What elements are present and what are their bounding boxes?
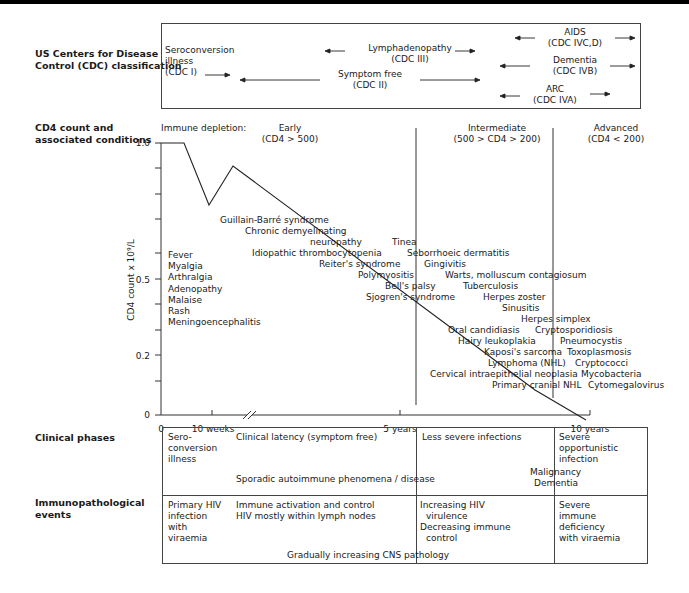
- condition: Tuberculosis: [463, 281, 518, 292]
- condition: Arthralgia: [168, 272, 261, 283]
- text: Immune activation and control: [236, 500, 376, 511]
- condition: Bell's palsy: [385, 281, 435, 292]
- condition: Cytomegalovirus: [588, 380, 664, 391]
- y-tick-1.0: 1.0: [136, 138, 151, 148]
- clinical-latency: Clinical latency (symptom free): [236, 432, 377, 443]
- text: Sero-: [168, 432, 217, 443]
- clinical-dementia: Dementia: [534, 478, 578, 489]
- condition: Chronic demyelinating: [245, 226, 347, 237]
- condition: Cryptococci: [575, 358, 628, 369]
- immuno-row-label: Immunopathological events: [35, 497, 145, 521]
- condition: neuropathy: [310, 237, 362, 248]
- text: HIV mostly within lymph nodes: [236, 511, 376, 522]
- immuno-primary: Primary HIV infection with viraemia: [168, 500, 221, 544]
- condition: Pneumocystis: [560, 336, 622, 347]
- condition: Herpes zoster: [483, 292, 546, 303]
- clinical-seroconversion: Sero- conversion illness: [168, 432, 217, 465]
- condition: Reiter's syndrome: [319, 259, 400, 270]
- text: infection: [168, 511, 221, 522]
- immuno-increasing: Increasing HIV virulence Decreasing immu…: [420, 500, 510, 544]
- clinical-malignancy: Malignancy: [530, 467, 581, 478]
- condition: Cryptosporidiosis: [535, 325, 613, 336]
- y-axis-label: CD4 count x 10⁹/L: [126, 239, 136, 320]
- early-conditions-list: Fever Myalgia Arthralgia Adenopathy Mala…: [168, 250, 261, 328]
- immuno-severe: Severe immune deficiency with viraemia: [559, 500, 620, 544]
- text: viraemia: [168, 533, 221, 544]
- clinical-autoimmune: Sporadic autoimmune phenomena / disease: [236, 474, 435, 485]
- condition: Meningoencephalitis: [168, 317, 261, 328]
- condition: Seborrhoeic dermatitis: [407, 248, 509, 259]
- condition: Tinea: [392, 237, 416, 248]
- condition: Toxoplasmosis: [567, 347, 631, 358]
- text: Increasing HIV: [420, 500, 510, 511]
- text: opportunistic: [559, 443, 618, 454]
- y-tick-0.5: 0.5: [136, 275, 150, 285]
- clinical-severe: Severe opportunistic infection: [559, 432, 618, 465]
- condition: Kaposi's sarcoma: [484, 347, 562, 358]
- condition: Fever: [168, 250, 261, 261]
- condition: Gingivitis: [424, 259, 466, 270]
- immuno-label-line1: Immunopathological: [35, 497, 145, 509]
- condition: Polymyositis: [358, 270, 414, 281]
- condition: Mycobacteria: [581, 369, 642, 380]
- condition: Cervical intraepithelial neoplasia: [430, 369, 578, 380]
- clinical-less-severe: Less severe infections: [422, 432, 521, 443]
- condition: Adenopathy: [168, 284, 261, 295]
- condition: Warts, molluscum contagiosum: [445, 270, 587, 281]
- condition: Hairy leukoplakia: [458, 336, 536, 347]
- text: conversion: [168, 443, 217, 454]
- condition: Sjogren's syndrome: [366, 292, 455, 303]
- text: control: [420, 533, 510, 544]
- y-tick-0.2: 0.2: [136, 351, 150, 361]
- text: infection: [559, 454, 618, 465]
- condition: Sinusitis: [502, 303, 540, 314]
- text: immune: [559, 511, 620, 522]
- condition: Idiopathic thrombocytopenia: [252, 248, 382, 259]
- text: with viraemia: [559, 533, 620, 544]
- condition: Herpes simplex: [521, 314, 591, 325]
- cdc-arrows: [205, 36, 635, 98]
- immuno-cns: Gradually increasing CNS pathology: [287, 550, 449, 561]
- text: illness: [168, 454, 217, 465]
- condition: Oral candidiasis: [448, 325, 520, 336]
- condition: Guillain-Barré syndrome: [220, 215, 329, 226]
- condition: Myalgia: [168, 261, 261, 272]
- divider: [554, 495, 555, 564]
- immuno-label-line2: events: [35, 509, 145, 521]
- text: Primary HIV: [168, 500, 221, 511]
- text: virulence: [420, 511, 510, 522]
- text: Severe: [559, 432, 618, 443]
- text: deficiency: [559, 522, 620, 533]
- y-tick-0: 0: [144, 410, 150, 420]
- text: Decreasing immune: [420, 522, 510, 533]
- condition: Rash: [168, 306, 261, 317]
- condition: Lymphoma (NHL): [488, 358, 566, 369]
- divider: [416, 427, 417, 496]
- condition: Primary cranial NHL: [492, 380, 581, 391]
- condition: Malaise: [168, 295, 261, 306]
- text: with: [168, 522, 221, 533]
- clinical-phases-label: Clinical phases: [35, 432, 115, 444]
- text: Severe: [559, 500, 620, 511]
- immuno-activation: Immune activation and control HIV mostly…: [236, 500, 376, 522]
